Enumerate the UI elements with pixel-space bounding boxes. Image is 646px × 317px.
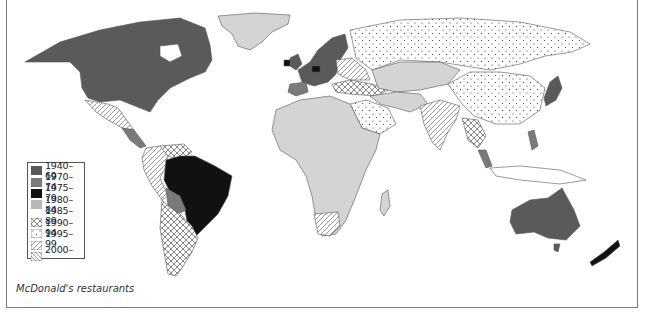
region-japan (544, 76, 562, 106)
swatch-diagonal-back-icon (31, 246, 42, 255)
region-russia (350, 18, 590, 70)
world-map (0, 0, 646, 317)
region-se-asia (462, 118, 486, 148)
region-new-zealand (590, 240, 620, 266)
map-caption: McDonald's restaurants (16, 283, 134, 294)
region-madagascar (380, 190, 390, 216)
region-philippines (528, 130, 538, 150)
region-north-america (25, 18, 212, 112)
map-legend: 1940–69 1970–74 1975–79 1980–84 1985–89 … (27, 162, 85, 259)
region-central-asia (372, 62, 460, 92)
region-mexico (85, 100, 134, 130)
region-indonesia (490, 166, 586, 184)
swatch-solid-dark-icon (31, 166, 42, 175)
legend-label: 2000– (45, 245, 73, 255)
region-iberia (288, 82, 308, 96)
swatch-crosshatch-icon (31, 212, 42, 221)
region-colombia-peru (142, 146, 168, 200)
legend-item-1995-99: 1995–99 (31, 233, 81, 244)
region-greenland (218, 13, 290, 50)
region-tasmania (554, 244, 560, 252)
swatch-solid-mid-icon (31, 178, 42, 187)
region-ireland (284, 60, 290, 66)
region-central-america (122, 128, 146, 148)
region-australia (510, 188, 580, 240)
swatch-solid-black-icon (31, 189, 42, 198)
region-malaysia (478, 150, 492, 168)
region-uk (290, 54, 302, 70)
region-india (420, 100, 460, 150)
region-china (448, 72, 545, 124)
swatch-solid-light-icon (31, 200, 42, 209)
swatch-diagonal-forward-icon (31, 235, 42, 244)
region-netherlands (312, 66, 320, 72)
swatch-dots-icon (31, 223, 42, 232)
